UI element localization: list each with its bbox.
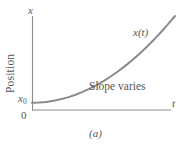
origin-label: 0 [21,110,27,121]
x-axis-symbol: t [172,98,175,109]
initial-position-label: x0 [18,93,27,106]
figure-caption: (a) [0,128,191,139]
y-axis-symbol: x [28,5,33,16]
initial-position-subscript: 0 [23,97,27,106]
position-time-figure: x Position t 0 x0 x(t) Slope varies (a) [0,0,191,151]
curve-label: x(t) [133,27,148,38]
slope-annotation: Slope varies [89,81,146,93]
